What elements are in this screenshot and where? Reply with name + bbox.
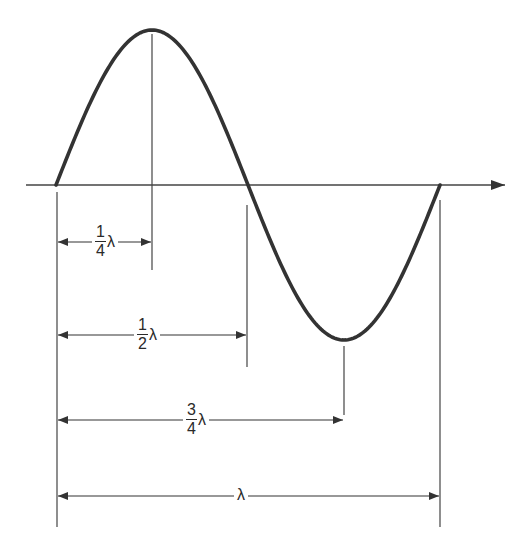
half-wavelength-label: 1 2 λ (134, 317, 160, 352)
fraction: 1 4 (95, 224, 106, 259)
quarter-wavelength-label: 1 4 λ (92, 224, 118, 259)
lambda-symbol: λ (107, 233, 115, 251)
three-quarter-wavelength-label: 3 4 λ (183, 402, 209, 437)
wave-diagram (0, 0, 520, 555)
lambda-symbol: λ (198, 411, 206, 429)
fraction: 3 4 (186, 402, 197, 437)
full-wavelength-label: λ (234, 486, 248, 504)
fraction: 1 2 (137, 317, 148, 352)
lambda-symbol: λ (149, 326, 157, 344)
lambda-symbol: λ (237, 486, 245, 504)
